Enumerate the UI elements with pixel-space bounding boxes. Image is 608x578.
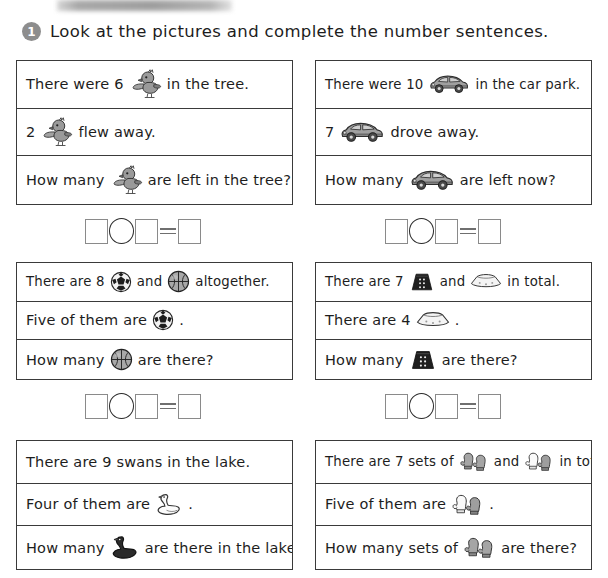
line-text-after: in total. <box>559 454 591 469</box>
line-text-mid: and <box>494 454 520 469</box>
answer-box-first[interactable] <box>85 394 108 419</box>
question-box-mittens: There are 7 sets of and in total. Five o… <box>315 440 592 570</box>
question-box-balls: There are 8 and altogether. Five of them… <box>16 262 293 380</box>
operator-circle[interactable] <box>109 218 134 244</box>
line-text-before: How many <box>26 540 105 556</box>
question-line: Five of them are . <box>316 484 591 527</box>
question-line: How many are there? <box>17 340 292 379</box>
answer-row-1-right[interactable] <box>385 218 501 244</box>
line-text-after: are there? <box>138 352 214 368</box>
bird-icon <box>40 117 73 147</box>
line-text-after: are there in the lake? <box>145 540 292 556</box>
answer-box-second[interactable] <box>435 219 458 244</box>
line-text-before: There are 8 <box>26 274 105 289</box>
soccer-ball-icon <box>152 309 174 331</box>
line-text-before: There were 6 <box>26 76 124 92</box>
line-text-before: Five of them are <box>26 312 147 328</box>
gray-mitten-pair-icon <box>463 536 496 559</box>
white-mitten-pair-icon <box>524 451 554 472</box>
line-text-after: in the car park. <box>475 77 580 92</box>
equals-sign-icon <box>160 403 176 409</box>
line-text-before: How many <box>26 172 105 188</box>
answer-box-result[interactable] <box>478 394 501 419</box>
answer-box-first[interactable] <box>385 394 408 419</box>
basketball-icon <box>110 348 133 371</box>
line-text-before: Five of them are <box>325 496 446 512</box>
question-line: How many are left in the tree? <box>17 156 292 204</box>
operator-circle[interactable] <box>109 393 134 419</box>
question-box-swans: There are 9 swans in the lake. Four of t… <box>16 440 293 570</box>
line-text-before: 2 <box>26 124 35 140</box>
dark-skirt-icon <box>409 348 437 372</box>
question-number-badge: 1 <box>22 22 41 41</box>
question-box-birds: There were 6 in the tree. 2 flew away. H… <box>16 60 293 205</box>
soccer-ball-icon <box>110 271 132 293</box>
line-text-before: There were 10 <box>325 77 423 92</box>
question-line: Five of them are . <box>17 302 292 341</box>
answer-box-second[interactable] <box>135 394 158 419</box>
car-icon <box>428 73 470 95</box>
line-text-after: . <box>455 312 460 328</box>
answer-row-2-right[interactable] <box>385 393 501 419</box>
line-text-before: How many sets of <box>325 540 458 556</box>
answer-box-first[interactable] <box>85 219 108 244</box>
question-line: There were 6 in the tree. <box>17 61 292 109</box>
line-text-after: are there? <box>501 540 577 556</box>
line-text-after: flew away. <box>78 124 155 140</box>
line-text-before: There are 7 sets of <box>325 454 454 469</box>
line-text-after: altogether. <box>195 274 269 289</box>
light-skirt-icon <box>416 310 450 330</box>
line-text-before: 7 <box>325 124 334 140</box>
answer-row-1[interactable] <box>85 218 201 244</box>
gray-mitten-pair-icon <box>459 451 489 472</box>
white-mitten-pair-icon <box>451 493 484 516</box>
light-skirt-icon <box>470 272 502 291</box>
question-box-cars: There were 10 in the car park. 7 drove a… <box>315 60 592 205</box>
line-text-after: in total. <box>507 274 560 289</box>
answer-box-second[interactable] <box>135 219 158 244</box>
line-text-before: How many <box>325 172 404 188</box>
line-text-after: . <box>188 496 193 512</box>
question-line: How many are there? <box>316 340 591 379</box>
equals-sign-icon <box>460 228 476 234</box>
question-line: 7 drove away. <box>316 109 591 157</box>
question-line: There were 10 in the car park. <box>316 61 591 109</box>
line-text-before: There are 7 <box>325 274 404 289</box>
question-line: There are 4 . <box>316 302 591 341</box>
answer-row-2[interactable] <box>85 393 201 419</box>
dark-swan-icon <box>110 534 140 561</box>
line-text-before: How many <box>26 352 105 368</box>
answer-box-first[interactable] <box>385 219 408 244</box>
equals-sign-icon <box>160 228 176 234</box>
operator-circle[interactable] <box>409 393 434 419</box>
operator-circle[interactable] <box>409 218 434 244</box>
line-text-before: There are 4 <box>325 312 411 328</box>
bird-icon <box>129 69 162 99</box>
line-text-after: are left in the tree? <box>148 172 291 188</box>
line-text-mid: and <box>137 274 163 289</box>
question-line: How many are there in the lake? <box>17 526 292 569</box>
question-line: There are 7 and in total. <box>316 263 591 302</box>
white-swan-icon <box>155 492 183 517</box>
line-text-mid: and <box>440 274 466 289</box>
question-line: There are 8 and altogether. <box>17 263 292 302</box>
answer-box-result[interactable] <box>478 219 501 244</box>
question-box-skirts: There are 7 and in total. There are 4 . … <box>315 262 592 380</box>
answer-box-result[interactable] <box>178 394 201 419</box>
question-line: Four of them are . <box>17 484 292 527</box>
question-line: How many sets of are there? <box>316 526 591 569</box>
answer-box-result[interactable] <box>178 219 201 244</box>
question-line: There are 9 swans in the lake. <box>17 441 292 484</box>
line-text-before: There are 9 swans in the lake. <box>26 454 250 470</box>
line-text-after: are there? <box>442 352 518 368</box>
line-text-after: in the tree. <box>167 76 249 92</box>
question-line: There are 7 sets of and in total. <box>316 441 591 484</box>
cropped-header-banner <box>57 0 232 11</box>
line-text-after: are left now? <box>460 172 556 188</box>
line-text-after: . <box>179 312 184 328</box>
dark-skirt-icon <box>409 271 435 293</box>
equals-sign-icon <box>460 403 476 409</box>
answer-box-second[interactable] <box>435 394 458 419</box>
instruction-line: 1 Look at the pictures and complete the … <box>22 22 549 41</box>
line-text-before: Four of them are <box>26 496 150 512</box>
